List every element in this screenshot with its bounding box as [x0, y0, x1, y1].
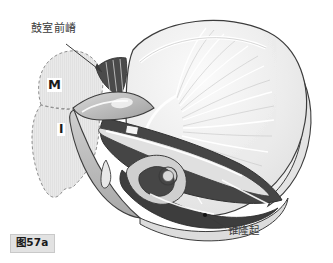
- region-label-i: I: [57, 123, 65, 136]
- label-anterior-tympanic-crest: 鼓室前嵴: [31, 23, 77, 34]
- label-pyramidal-eminence: 锥隆起: [228, 225, 259, 236]
- region-label-m: M: [47, 78, 62, 92]
- figure-caption: 图57a: [10, 234, 55, 253]
- middle-ear-illustration: [0, 0, 333, 263]
- anatomical-figure: 鼓室前嵴 锥隆起 M I 图57a: [0, 0, 333, 263]
- pyramidal-eminence-marker-dot: [203, 213, 207, 217]
